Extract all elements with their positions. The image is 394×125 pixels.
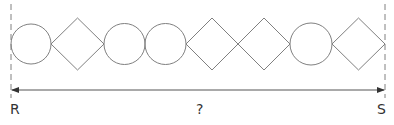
diamond-shape [186,18,238,70]
diamond-shape [332,18,385,70]
circle-shape [290,23,332,65]
label-question-mark: ? [196,101,203,117]
circle-shape [145,24,186,65]
circle-shape [11,24,51,64]
circle-shape [104,24,145,65]
diamond-shape [51,18,104,70]
shape-row [11,18,385,70]
label-r: R [10,101,20,117]
shape-sequence-diagram: R ? S [0,0,394,125]
diamond-shape [238,18,290,70]
label-s: S [377,101,386,117]
